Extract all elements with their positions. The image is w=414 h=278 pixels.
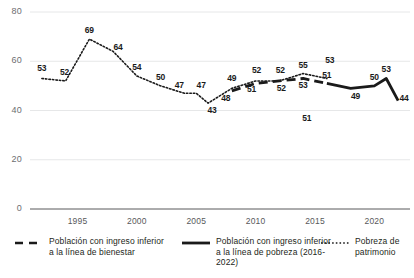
point-label: 47 [197, 80, 206, 90]
chart-legend: Población con ingreso inferior a la líne… [0, 236, 414, 278]
point-label: 53 [37, 63, 46, 73]
point-label: 53 [382, 64, 391, 74]
legend-item-pobreza[interactable]: Población con ingreso inferior a la líne… [181, 236, 331, 268]
x-tick-2005: 2005 [176, 216, 216, 226]
dashed-line-icon [14, 237, 44, 249]
dotted-line-icon [320, 237, 350, 249]
point-label: 52 [252, 65, 261, 75]
point-label: 50 [156, 72, 165, 82]
point-label: 64 [113, 42, 122, 52]
point-label: 50 [370, 72, 379, 82]
x-tick-1995: 1995 [58, 216, 98, 226]
point-label: 47 [175, 80, 184, 90]
y-tick-20: 20 [0, 154, 22, 164]
point-label: 51 [322, 70, 331, 80]
point-label: 55 [298, 60, 307, 70]
point-label: 51 [247, 84, 256, 94]
legend-label-patrimonio: Pobreza de patrimonio [355, 236, 414, 257]
point-label: 49 [351, 91, 360, 101]
solid-line-icon [181, 237, 211, 249]
y-tick-60: 60 [0, 55, 22, 65]
point-label: 52 [277, 83, 286, 93]
point-label: 49 [227, 73, 236, 83]
point-label: 54 [132, 62, 141, 72]
y-tick-80: 80 [0, 6, 22, 16]
x-tick-2015: 2015 [295, 216, 335, 226]
series-lines [42, 39, 398, 103]
point-label: 51 [302, 113, 311, 123]
point-label: 53 [298, 80, 307, 90]
point-label: 43 [207, 105, 216, 115]
x-tick-2020: 2020 [354, 216, 394, 226]
point-label: 69 [85, 25, 94, 35]
point-label: 44 [399, 93, 408, 103]
y-tick-0: 0 [0, 203, 22, 213]
legend-label-pobreza: Población con ingreso inferior a la líne… [216, 236, 331, 268]
point-label: 52 [60, 67, 69, 77]
chart-plot-area [0, 0, 414, 232]
series-line-2 [327, 78, 398, 100]
legend-item-bienestar[interactable]: Población con ingreso inferior a la líne… [14, 236, 164, 257]
x-tick-2010: 2010 [236, 216, 276, 226]
y-tick-40: 40 [0, 105, 22, 115]
chart-container: 806040200 199520002005201020152020 53526… [0, 0, 414, 278]
legend-label-bienestar: Población con ingreso inferior a la líne… [49, 236, 164, 257]
point-label: 53 [325, 55, 334, 65]
point-label: 52 [276, 65, 285, 75]
x-tick-2000: 2000 [117, 216, 157, 226]
point-label: 48 [221, 93, 230, 103]
legend-item-patrimonio[interactable]: Pobreza de patrimonio [320, 236, 414, 257]
